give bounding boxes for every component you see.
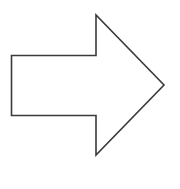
arrow-shape xyxy=(12,15,165,155)
diagram-canvas xyxy=(0,0,180,189)
right-arrow-icon xyxy=(0,0,180,189)
